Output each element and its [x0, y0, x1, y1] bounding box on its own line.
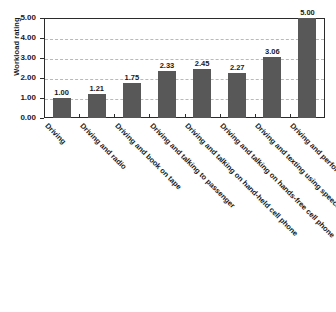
y-axis-tick: 3.00	[0, 53, 44, 63]
y-axis-tick-label: 1.00	[20, 93, 36, 103]
bar-group: 2.45	[193, 18, 211, 118]
bar	[228, 73, 246, 118]
bar	[53, 98, 71, 118]
x-axis-category-label: Driving	[43, 122, 67, 146]
bar-group: 1.00	[53, 18, 71, 118]
bar	[263, 57, 281, 118]
bar-group: 3.06	[263, 18, 281, 118]
bar-value-label: 2.33	[160, 61, 175, 70]
workload-rating-bar-chart: Workload rating 5.004.003.002.001.000.00…	[0, 0, 336, 312]
bar-value-label: 2.45	[195, 59, 210, 68]
bar-group: 5.00	[298, 18, 316, 118]
y-axis-tick: 1.00	[0, 93, 44, 103]
bar-group: 1.21	[88, 18, 106, 118]
bar-value-label: 5.00	[300, 8, 315, 17]
bar-value-label: 1.75	[125, 73, 140, 82]
bar-value-label: 2.27	[230, 63, 245, 72]
bar-value-label: 3.06	[265, 47, 280, 56]
y-axis-tick-label: 3.00	[20, 53, 36, 63]
x-axis-category-label: Driving and book on tape	[113, 122, 182, 191]
bar	[193, 69, 211, 118]
y-axis-tick-label: 2.00	[20, 73, 36, 83]
y-axis-tick: 2.00	[0, 73, 44, 83]
y-axis-tick-label: 5.00	[20, 13, 36, 23]
x-axis-category-labels: DrivingDriving and radioDriving and book…	[44, 118, 336, 312]
y-axis-tick: 0.00	[0, 113, 44, 123]
bar-group: 1.75	[123, 18, 141, 118]
bar-group: 2.33	[158, 18, 176, 118]
bar	[298, 18, 316, 118]
bar-value-label: 1.00	[54, 88, 69, 97]
y-axis-tick: 4.00	[0, 33, 44, 43]
bar	[123, 83, 141, 118]
bars-layer: 1.001.211.752.332.452.273.065.00	[44, 18, 325, 118]
bar-group: 2.27	[228, 18, 246, 118]
bar	[158, 71, 176, 118]
y-axis-tick: 5.00	[0, 13, 44, 23]
y-axis-tick-label: 0.00	[20, 113, 36, 123]
bar-value-label: 1.21	[89, 84, 104, 93]
y-axis-tick-label: 4.00	[20, 33, 36, 43]
bar	[88, 94, 106, 118]
